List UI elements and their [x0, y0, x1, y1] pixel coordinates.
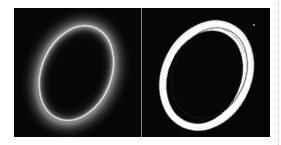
- thresholded-ring-image: [142, 8, 270, 137]
- soft-ring-panel: [14, 8, 141, 137]
- thresholded-ring-panel: [142, 8, 270, 137]
- figure: [14, 8, 270, 137]
- dotted-edge-line: [278, 0, 279, 145]
- soft-ring-image: [14, 8, 141, 137]
